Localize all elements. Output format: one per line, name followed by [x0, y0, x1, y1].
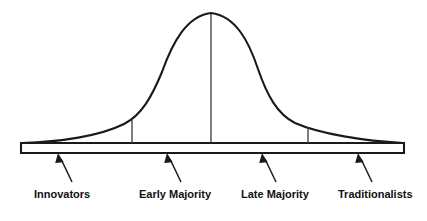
segment-label-traditionalists: Traditionalists	[338, 188, 413, 200]
segment-label-early-majority: Early Majority	[139, 188, 211, 200]
baseline-bar	[21, 143, 404, 153]
adoption-curve-figure: Innovators Early Majority Late Majority …	[0, 0, 427, 221]
segment-label-innovators: Innovators	[34, 188, 90, 200]
segment-label-late-majority: Late Majority	[241, 188, 309, 200]
